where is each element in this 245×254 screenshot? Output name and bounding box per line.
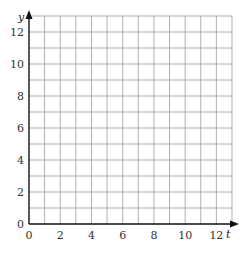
y-tick-label: 12 xyxy=(10,26,24,39)
y-tick-label: 4 xyxy=(17,154,24,167)
x-tick-label: 6 xyxy=(119,229,126,242)
y-tick-label: 8 xyxy=(17,90,24,103)
x-tick-label: 10 xyxy=(178,229,192,242)
blank-coordinate-grid: 024681012 024681012 t y xyxy=(0,0,245,254)
x-tick-label: 2 xyxy=(57,229,64,242)
x-axis-arrow-icon xyxy=(230,221,239,228)
y-tick-label: 0 xyxy=(17,218,24,231)
x-tick-label: 4 xyxy=(88,229,95,242)
x-tick-label: 12 xyxy=(209,229,223,242)
x-axis-label: t xyxy=(226,228,231,241)
y-tick-labels: 024681012 xyxy=(10,26,24,231)
y-axis-label: y xyxy=(17,11,25,24)
y-tick-label: 6 xyxy=(17,122,24,135)
x-tick-labels: 024681012 xyxy=(26,229,224,242)
y-tick-label: 10 xyxy=(10,58,24,71)
y-axis-arrow-icon xyxy=(26,10,33,19)
y-tick-label: 2 xyxy=(17,186,24,199)
x-tick-label: 0 xyxy=(26,229,33,242)
grid-lines xyxy=(29,16,232,224)
axes xyxy=(26,10,240,228)
x-tick-label: 8 xyxy=(150,229,157,242)
